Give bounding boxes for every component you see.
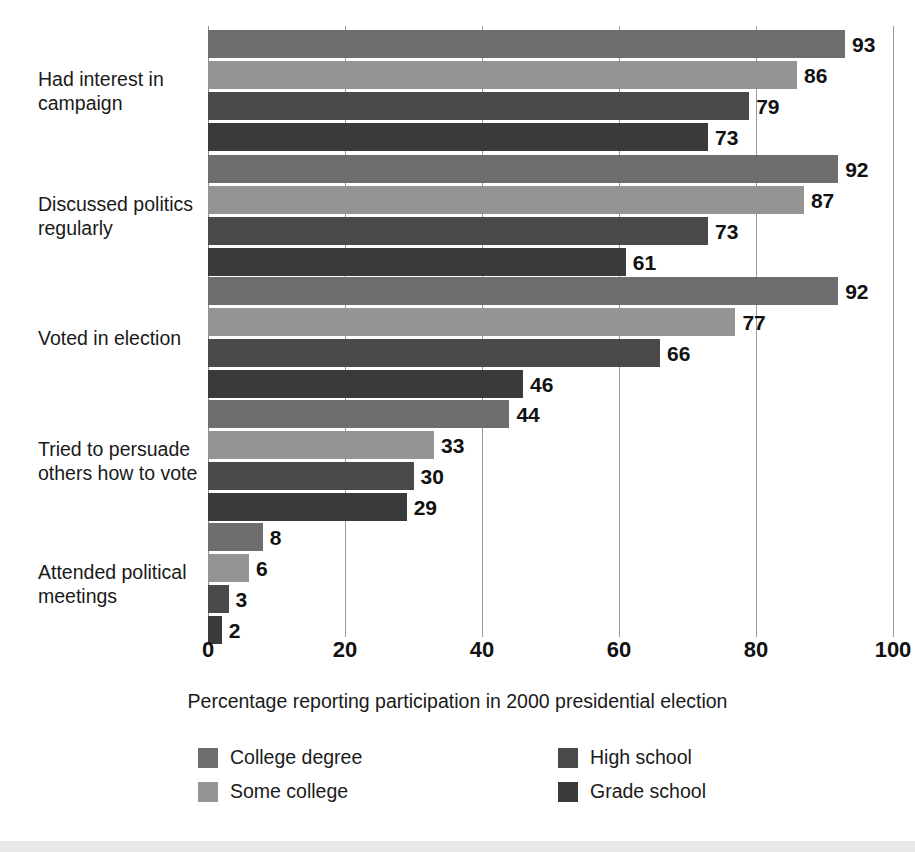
category-label-line: meetings bbox=[38, 584, 213, 608]
legend-item[interactable]: High school bbox=[558, 748, 692, 768]
bar-row: 3 bbox=[208, 585, 893, 613]
legend-swatch-icon bbox=[198, 782, 218, 802]
legend-item[interactable]: Some college bbox=[198, 782, 348, 802]
bar-value-label: 79 bbox=[756, 96, 779, 117]
bar bbox=[208, 400, 509, 428]
bar bbox=[208, 248, 626, 276]
gridline-100 bbox=[893, 26, 894, 637]
bar-row: 6 bbox=[208, 554, 893, 582]
x-tick-label-0: 0 bbox=[202, 637, 214, 663]
bar-chart-figure: Had interest incampaignDiscussed politic… bbox=[0, 0, 915, 852]
bar bbox=[208, 462, 414, 490]
category-label-line: regularly bbox=[38, 216, 213, 240]
bar bbox=[208, 370, 523, 398]
bar-row: 8 bbox=[208, 523, 893, 551]
bar-value-label: 92 bbox=[845, 281, 868, 302]
bar-row: 46 bbox=[208, 370, 893, 398]
category-label: Discussed politicsregularly bbox=[38, 192, 213, 240]
bar bbox=[208, 186, 804, 214]
bar-row: 30 bbox=[208, 462, 893, 490]
legend-label: Some college bbox=[230, 782, 348, 802]
bar-value-label: 87 bbox=[811, 190, 834, 211]
bar-value-label: 3 bbox=[236, 589, 248, 610]
chart-legend: College degreeSome collegeHigh schoolGra… bbox=[198, 748, 798, 808]
x-axis-tick-labels: 020406080100 bbox=[208, 637, 893, 667]
bar-row: 92 bbox=[208, 277, 893, 305]
bar bbox=[208, 92, 749, 120]
plot-area: 938679739287736192776646443330298632 bbox=[208, 26, 893, 637]
x-tick-label-60: 60 bbox=[607, 637, 631, 663]
x-axis-title: Percentage reporting participation in 20… bbox=[0, 690, 915, 713]
category-label-line: Discussed politics bbox=[38, 192, 213, 216]
bar bbox=[208, 277, 838, 305]
bar bbox=[208, 217, 708, 245]
bar-row: 61 bbox=[208, 248, 893, 276]
legend-item[interactable]: College degree bbox=[198, 748, 362, 768]
legend-item[interactable]: Grade school bbox=[558, 782, 706, 802]
bottom-band-divider bbox=[0, 841, 915, 852]
category-label-line: others how to vote bbox=[38, 461, 213, 485]
bar bbox=[208, 431, 434, 459]
bar-value-label: 93 bbox=[852, 34, 875, 55]
legend-label: High school bbox=[590, 748, 692, 768]
bar bbox=[208, 554, 249, 582]
bar-value-label: 8 bbox=[270, 527, 282, 548]
bar bbox=[208, 523, 263, 551]
bar bbox=[208, 308, 735, 336]
category-label: Attended politicalmeetings bbox=[38, 560, 213, 608]
bar bbox=[208, 339, 660, 367]
category-label-line: Voted in election bbox=[38, 326, 213, 350]
bar-row: 73 bbox=[208, 123, 893, 151]
bar bbox=[208, 61, 797, 89]
category-label: Tried to persuadeothers how to vote bbox=[38, 437, 213, 485]
bar bbox=[208, 155, 838, 183]
bar-row: 79 bbox=[208, 92, 893, 120]
bar-value-label: 29 bbox=[414, 497, 437, 518]
bar-value-label: 66 bbox=[667, 343, 690, 364]
category-label-line: campaign bbox=[38, 91, 213, 115]
category-label: Had interest incampaign bbox=[38, 67, 213, 115]
bar-value-label: 6 bbox=[256, 558, 268, 579]
x-tick-label-40: 40 bbox=[470, 637, 494, 663]
bar-value-label: 61 bbox=[633, 252, 656, 273]
x-tick-label-80: 80 bbox=[744, 637, 768, 663]
bar-value-label: 86 bbox=[804, 65, 827, 86]
bar-row: 33 bbox=[208, 431, 893, 459]
bar-row: 29 bbox=[208, 493, 893, 521]
category-label-line: Attended political bbox=[38, 560, 213, 584]
bar bbox=[208, 30, 845, 58]
category-label: Voted in election bbox=[38, 326, 213, 350]
x-tick-label-20: 20 bbox=[333, 637, 357, 663]
bar bbox=[208, 493, 407, 521]
bar-row: 92 bbox=[208, 155, 893, 183]
legend-swatch-icon bbox=[558, 782, 578, 802]
bar-row: 73 bbox=[208, 217, 893, 245]
bar-row: 77 bbox=[208, 308, 893, 336]
x-tick-label-100: 100 bbox=[875, 637, 912, 663]
bar-value-label: 46 bbox=[530, 374, 553, 395]
legend-swatch-icon bbox=[198, 748, 218, 768]
bar-value-label: 30 bbox=[421, 466, 444, 487]
legend-swatch-icon bbox=[558, 748, 578, 768]
bar-row: 93 bbox=[208, 30, 893, 58]
category-label-line: Had interest in bbox=[38, 67, 213, 91]
bar-value-label: 73 bbox=[715, 221, 738, 242]
bar-row: 86 bbox=[208, 61, 893, 89]
category-label-line: Tried to persuade bbox=[38, 437, 213, 461]
legend-label: Grade school bbox=[590, 782, 706, 802]
bar-value-label: 77 bbox=[742, 312, 765, 333]
bar-value-label: 92 bbox=[845, 159, 868, 180]
bar bbox=[208, 585, 229, 613]
legend-label: College degree bbox=[230, 748, 362, 768]
bar-value-label: 44 bbox=[516, 404, 539, 425]
bar-row: 66 bbox=[208, 339, 893, 367]
bar-row: 87 bbox=[208, 186, 893, 214]
bar-value-label: 73 bbox=[715, 127, 738, 148]
bar bbox=[208, 123, 708, 151]
bar-row: 44 bbox=[208, 400, 893, 428]
bar-value-label: 33 bbox=[441, 435, 464, 456]
